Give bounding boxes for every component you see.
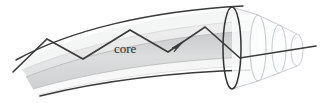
optical-fiber-figure: core bbox=[0, 0, 322, 103]
core-label: core bbox=[114, 41, 137, 56]
cylinder-outer-body bbox=[232, 12, 258, 86]
cylinder-second-body bbox=[258, 20, 279, 77]
fiber-diagram-canvas: core bbox=[0, 0, 322, 103]
